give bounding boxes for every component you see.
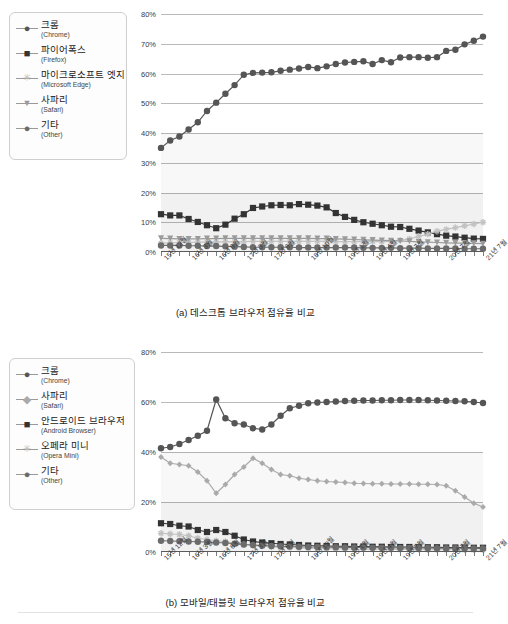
data-point bbox=[176, 523, 182, 529]
triangle-down-marker-icon: ▼ bbox=[16, 94, 38, 114]
data-point bbox=[333, 244, 339, 250]
data-point bbox=[324, 479, 330, 485]
data-point bbox=[158, 242, 164, 248]
figure-b-caption: (b) 모바일/태블릿 브라우저 점유율 비교 bbox=[0, 595, 491, 609]
data-point bbox=[287, 405, 293, 411]
data-point bbox=[268, 421, 274, 427]
legend-item[interactable]: ✳오페라 미니(Opera Mini) bbox=[16, 440, 126, 460]
legend-label-ko: 마이크로소프트 엣지 bbox=[41, 70, 125, 80]
legend-label-ko: 사파리 bbox=[41, 95, 68, 105]
series-line bbox=[161, 400, 483, 449]
data-point bbox=[351, 217, 357, 223]
legend-label-en: (Android Browser) bbox=[41, 427, 125, 434]
data-point bbox=[370, 221, 376, 227]
data-point bbox=[259, 203, 265, 209]
legend-item[interactable]: ■안드로이드 브라우저(Android Browser) bbox=[16, 415, 126, 435]
data-point bbox=[361, 481, 367, 487]
data-point bbox=[369, 397, 375, 403]
data-point bbox=[351, 398, 357, 404]
data-point bbox=[186, 216, 192, 222]
data-point bbox=[360, 58, 366, 64]
legend-item[interactable]: ●기타(Other) bbox=[16, 465, 126, 485]
data-point bbox=[333, 61, 339, 67]
legend-label: 사파리(Safari) bbox=[41, 94, 68, 113]
series-layer-b bbox=[161, 352, 483, 552]
legend-item[interactable]: ■파이어폭스(Firefox) bbox=[16, 44, 118, 64]
data-point bbox=[314, 65, 320, 71]
data-point bbox=[461, 223, 467, 229]
data-point bbox=[425, 231, 431, 237]
chart-figure-b: 0%20%40%60%80% 15년 12월16년 3월16년 6월17년 3월… bbox=[133, 352, 483, 552]
data-point bbox=[296, 403, 302, 409]
data-point bbox=[379, 481, 385, 487]
data-point bbox=[434, 397, 440, 403]
data-point bbox=[452, 233, 458, 239]
data-point bbox=[277, 68, 283, 74]
legend-item[interactable]: ●크롬(Chrome) bbox=[16, 19, 118, 39]
data-point bbox=[471, 221, 477, 227]
data-point bbox=[278, 202, 284, 208]
legend-label-en: (Safari) bbox=[41, 402, 68, 409]
y-tick-label: 80% bbox=[141, 10, 156, 19]
legend-item[interactable]: ●기타(Other) bbox=[16, 119, 118, 139]
data-point bbox=[315, 478, 321, 484]
data-point bbox=[176, 133, 182, 139]
circle-marker-icon: ● bbox=[16, 19, 38, 39]
legend-label: 마이크로소프트 엣지(Microsoft Edge) bbox=[41, 69, 125, 88]
legend-label-en: (Other) bbox=[41, 477, 63, 484]
data-point bbox=[342, 398, 348, 404]
y-tick-label: 30% bbox=[141, 158, 156, 167]
legend-label-ko: 크롬 bbox=[41, 366, 70, 376]
data-point bbox=[305, 64, 311, 70]
legend-label-ko: 오페라 미니 bbox=[41, 441, 89, 451]
data-point bbox=[287, 202, 293, 208]
data-point bbox=[231, 420, 237, 426]
data-point bbox=[222, 415, 228, 421]
data-point bbox=[185, 126, 191, 132]
data-point bbox=[241, 541, 247, 547]
data-point bbox=[296, 201, 302, 207]
chart-figure-a: 0%10%20%30%40%50%60%70%80% 15년 12월16년 3월… bbox=[133, 14, 483, 252]
data-point bbox=[213, 527, 219, 533]
y-tick-label: 60% bbox=[141, 398, 156, 407]
data-point bbox=[222, 529, 228, 535]
legend-label-en: (Safari) bbox=[41, 106, 68, 113]
data-point bbox=[360, 219, 366, 225]
data-point bbox=[342, 244, 348, 250]
data-point bbox=[305, 544, 311, 550]
data-point bbox=[388, 481, 394, 487]
data-point bbox=[342, 544, 348, 550]
data-point bbox=[268, 69, 274, 75]
data-point bbox=[351, 59, 357, 65]
data-point bbox=[388, 224, 394, 230]
data-point bbox=[416, 481, 422, 487]
x-axis-labels-a: 15년 12월16년 3월16년 6월17년 3월17년 6월18년 10월19… bbox=[161, 252, 483, 302]
data-point bbox=[158, 520, 164, 526]
legend-item[interactable]: ▼사파리(Safari) bbox=[16, 94, 118, 114]
data-point bbox=[241, 421, 247, 427]
data-point bbox=[333, 210, 339, 216]
legend-label: 사파리(Safari) bbox=[41, 390, 68, 409]
data-point bbox=[231, 82, 237, 88]
legend-item[interactable]: ✳마이크로소프트 엣지(Microsoft Edge) bbox=[16, 69, 118, 89]
data-point bbox=[241, 211, 247, 217]
data-point bbox=[461, 398, 467, 404]
legend-label-ko: 파이어폭스 bbox=[41, 45, 86, 55]
page-divider bbox=[18, 612, 473, 613]
data-point bbox=[452, 224, 458, 230]
data-point bbox=[369, 545, 375, 551]
data-point bbox=[342, 480, 348, 486]
legend-item[interactable]: ◆사파리(Safari) bbox=[16, 390, 126, 410]
data-point bbox=[296, 65, 302, 71]
legend-item[interactable]: ●크롬(Chrome) bbox=[16, 365, 126, 385]
legend-figure-a: ●크롬(Chrome)■파이어폭스(Firefox)✳마이크로소프트 엣지(Mi… bbox=[9, 12, 127, 160]
data-point bbox=[369, 61, 375, 67]
data-point bbox=[204, 108, 210, 114]
data-point bbox=[407, 481, 413, 487]
data-point bbox=[167, 137, 173, 143]
data-point bbox=[213, 225, 219, 231]
square-marker-icon: ■ bbox=[16, 415, 38, 435]
y-tick-label: 20% bbox=[141, 188, 156, 197]
data-point bbox=[268, 202, 274, 208]
data-point bbox=[278, 472, 284, 478]
